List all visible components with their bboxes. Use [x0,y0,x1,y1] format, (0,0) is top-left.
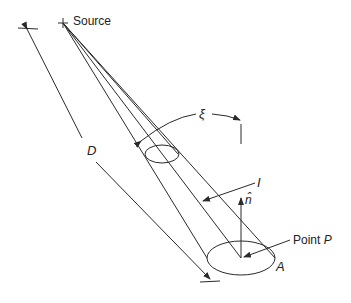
distance-label: D [87,144,96,157]
point-name: P [324,233,332,247]
source-label: Source [73,15,111,27]
dimension-tick-bottom [200,281,220,282]
point-leader-arrow [244,240,290,257]
intensity-label: I [257,176,261,189]
point-label: Point P [293,234,332,246]
angle-label: ξ [199,107,205,120]
point-prefix: Point [293,233,320,247]
dimension-tick-top [18,28,38,29]
diagram-drawing [0,0,351,303]
area-label: A [276,260,285,273]
diagram-canvas: Source D ξ I n̂ Point P A [0,0,351,303]
dimension-line-lower [96,162,210,279]
dimension-line-upper [27,29,82,138]
normal-label: n̂ [245,194,252,206]
cone-right-edge [63,23,275,258]
cone-left-edge [63,23,207,258]
cone-center-line [63,23,241,258]
